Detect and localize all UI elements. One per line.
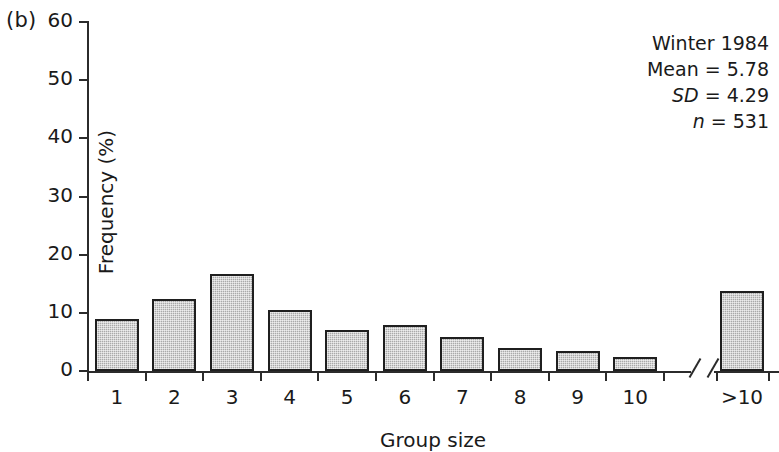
annotation-sd: SD = 4.29	[647, 82, 769, 108]
x-tick	[663, 372, 665, 381]
y-tick	[79, 312, 88, 314]
annotation-sd-label: SD	[672, 84, 699, 106]
annotation-n: n = 531	[647, 108, 769, 134]
x-tick-label: 10	[622, 385, 647, 409]
x-tick	[317, 372, 319, 381]
x-tick-label: 3	[226, 385, 239, 409]
panel-label: (b)	[6, 8, 36, 32]
x-tick	[375, 372, 377, 381]
y-tick	[79, 79, 88, 81]
x-tick	[716, 372, 718, 381]
x-tick-label: 2	[168, 385, 181, 409]
annotation-sd-value: = 4.29	[705, 84, 769, 106]
x-tick-label: >10	[721, 385, 763, 409]
annotation-mean-label: Mean	[647, 58, 699, 80]
x-tick	[490, 372, 492, 381]
x-tick	[548, 372, 550, 381]
y-tick-label: 10	[48, 299, 73, 323]
y-tick-label: 20	[48, 241, 73, 265]
y-tick-label: 40	[48, 124, 73, 148]
x-tick	[145, 372, 147, 381]
x-axis-title: Group size	[88, 428, 778, 452]
x-tick-label: 4	[283, 385, 296, 409]
y-tick	[79, 21, 88, 23]
x-tick-label: 8	[514, 385, 527, 409]
x-tick-label: 9	[571, 385, 584, 409]
x-tick	[605, 372, 607, 381]
y-tick	[79, 254, 88, 256]
x-tick	[87, 372, 89, 381]
y-axis-title: Frequency (%)	[94, 72, 118, 332]
x-tick	[260, 372, 262, 381]
annotation-mean-value: = 5.78	[705, 58, 769, 80]
annotation-mean: Mean = 5.78	[647, 56, 769, 82]
y-tick-label: 30	[48, 183, 73, 207]
x-tick-label: 1	[110, 385, 123, 409]
annotation-season-year: Winter 1984	[647, 30, 769, 56]
y-tick-label: 50	[48, 66, 73, 90]
x-tick-label: 6	[398, 385, 411, 409]
y-tick-label: 60	[48, 8, 73, 32]
x-tick	[202, 372, 204, 381]
y-tick-label: 0	[60, 357, 73, 381]
x-tick-label: 7	[456, 385, 469, 409]
stats-annotation: Winter 1984 Mean = 5.78 SD = 4.29 n = 53…	[647, 30, 769, 134]
annotation-n-label: n	[693, 110, 705, 132]
annotation-n-value: = 531	[711, 110, 769, 132]
x-tick	[768, 372, 770, 381]
x-tick-label: 5	[341, 385, 354, 409]
x-tick	[433, 372, 435, 381]
y-tick	[79, 137, 88, 139]
y-tick	[79, 196, 88, 198]
